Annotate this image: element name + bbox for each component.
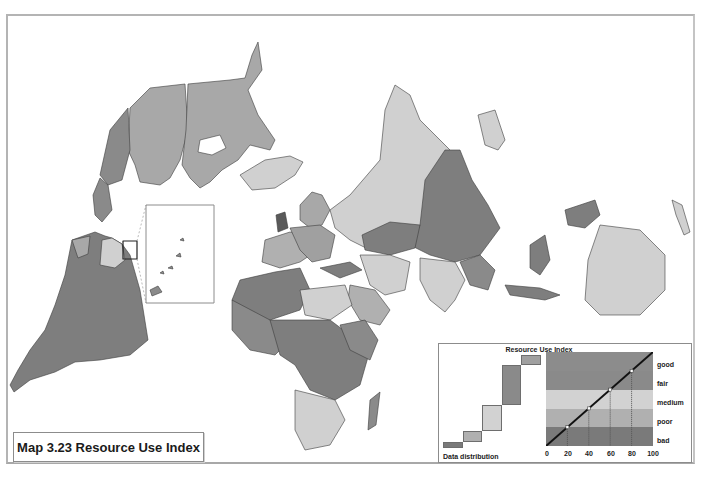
tick-100: 100 [647,450,659,457]
region-libya-egypt [300,285,352,320]
region-india [420,258,465,312]
band-label-fair: fair [657,380,668,387]
tick-40: 40 [585,450,593,457]
region-borneo [530,235,550,275]
band-label-medium: medium [657,399,684,406]
band-label-bad: bad [657,437,669,444]
dist-step-good [521,355,541,365]
region-southern-africa [295,390,345,450]
tick-0: 0 [545,450,549,457]
dist-step-fair [502,365,521,405]
region-japan [478,110,505,150]
dist-step-poor [463,431,482,442]
region-se-asia [460,255,495,290]
region-indonesia [505,285,560,300]
region-greenland [240,156,303,190]
tick-60: 60 [607,450,615,457]
band-label-poor: poor [657,418,673,425]
region-turkey [320,262,362,278]
legend-panel: Resource Use Index Data distribution goo… [438,343,692,463]
region-alaska-coast [100,108,130,185]
region-new-zealand [672,200,690,235]
legend-diagonal [546,352,653,446]
legend-scale [546,352,653,446]
region-png [565,200,600,228]
dist-step-medium [482,405,502,431]
region-usa [128,84,188,185]
tick-20: 20 [564,450,572,457]
tick-80: 80 [628,450,636,457]
region-uk [276,212,288,232]
map-title: Map 3.23 Resource Use Index [13,432,204,462]
region-australia [585,225,665,315]
band-label-good: good [657,361,674,368]
dist-step-bad [443,442,463,448]
distribution-label: Data distribution [443,453,499,460]
region-scandinavia [300,192,330,228]
region-madagascar [368,392,380,430]
